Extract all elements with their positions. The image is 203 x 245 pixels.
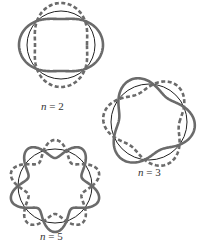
solid-wave-n2 — [19, 19, 103, 71]
figure-n3 — [103, 78, 195, 165]
label-value: = 5 — [46, 230, 63, 242]
dashed-wave-n2 — [35, 3, 87, 87]
standing-wave-diagram — [0, 0, 203, 245]
reference-circle-n3 — [111, 84, 187, 160]
label-n3: n = 3 — [138, 166, 161, 178]
label-n5: n = 5 — [40, 230, 63, 242]
reference-circle-n5 — [18, 149, 92, 223]
label-value: = 3 — [144, 166, 161, 178]
figure-n2 — [19, 3, 103, 87]
label-n2: n = 2 — [41, 100, 64, 112]
solid-wave-n3 — [114, 78, 195, 162]
figure-n5 — [11, 140, 99, 232]
label-value: = 2 — [47, 100, 64, 112]
